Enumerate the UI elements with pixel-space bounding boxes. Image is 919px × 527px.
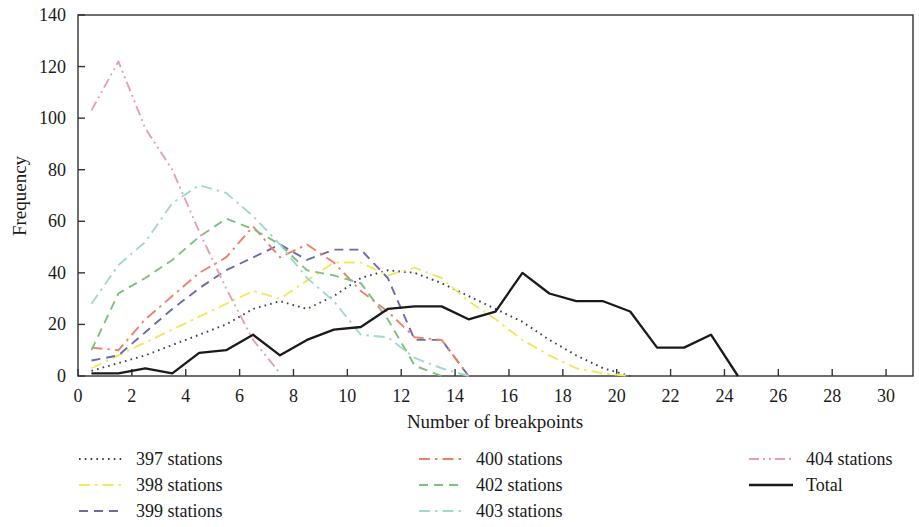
legend-line-sample — [748, 452, 794, 466]
x-tick-label: 22 — [662, 386, 680, 406]
legend-item[interactable]: 404 stations — [748, 446, 913, 472]
chart-plot-area: 024681012141618202224262830 020406080100… — [0, 0, 919, 440]
legend-item[interactable]: 397 stations — [78, 446, 418, 472]
legend-item-label: 403 stations — [476, 501, 563, 522]
legend-item-label: 399 stations — [136, 501, 223, 522]
y-tick-label: 140 — [39, 5, 66, 25]
legend-item-label: 404 stations — [806, 449, 893, 470]
x-tick-label: 28 — [823, 386, 841, 406]
y-tick-label: 120 — [39, 57, 66, 77]
x-tick-label: 4 — [181, 386, 190, 406]
x-tick-label: 8 — [289, 386, 298, 406]
legend-item-label: 400 stations — [476, 449, 563, 470]
x-tick-label: 10 — [338, 386, 356, 406]
x-tick-label: 12 — [392, 386, 410, 406]
x-tick-label: 16 — [500, 386, 518, 406]
legend-item-label: 397 stations — [136, 449, 223, 470]
legend-line-sample — [78, 504, 124, 518]
legend-line-sample — [418, 504, 464, 518]
legend-line-sample — [418, 452, 464, 466]
legend-item[interactable]: 402 stations — [418, 472, 748, 498]
x-tick-label: 20 — [608, 386, 626, 406]
x-tick-label: 6 — [235, 386, 244, 406]
series-line-397-stations — [91, 270, 630, 376]
x-tick-label: 26 — [769, 386, 787, 406]
chart-legend: 397 stations398 stations399 stations400 … — [78, 446, 913, 524]
series-line-404-stations — [91, 61, 280, 373]
series-line-403-stations — [91, 185, 468, 376]
legend-line-sample — [748, 478, 794, 492]
series-line-total — [91, 273, 737, 376]
data-series-group — [91, 61, 737, 376]
legend-line-sample — [418, 478, 464, 492]
legend-item-label: Total — [806, 475, 843, 496]
legend-line-sample — [78, 452, 124, 466]
legend-item[interactable]: 400 stations — [418, 446, 748, 472]
series-line-398-stations — [91, 263, 630, 376]
y-tick-label: 100 — [39, 108, 66, 128]
x-axis-tick-labels: 024681012141618202224262830 — [74, 386, 896, 406]
legend-item-label: 402 stations — [476, 475, 563, 496]
y-tick-label: 80 — [48, 160, 66, 180]
legend-line-sample — [78, 478, 124, 492]
legend-item[interactable]: 399 stations — [78, 498, 418, 524]
x-axis-title: Number of breakpoints — [407, 411, 583, 432]
x-axis-ticks — [78, 369, 886, 376]
line-chart: 024681012141618202224262830 020406080100… — [0, 0, 919, 440]
y-tick-label: 0 — [57, 366, 66, 386]
x-tick-label: 24 — [715, 386, 733, 406]
y-axis-ticks — [78, 15, 85, 376]
y-tick-label: 40 — [48, 263, 66, 283]
x-tick-label: 2 — [127, 386, 136, 406]
y-tick-label: 20 — [48, 314, 66, 334]
y-axis-title: Frequency — [9, 155, 30, 236]
legend-item[interactable]: 403 stations — [418, 498, 748, 524]
x-tick-label: 0 — [74, 386, 83, 406]
y-tick-label: 60 — [48, 211, 66, 231]
x-tick-label: 14 — [446, 386, 464, 406]
figure: 024681012141618202224262830 020406080100… — [0, 0, 919, 527]
x-tick-label: 18 — [554, 386, 572, 406]
legend-item[interactable]: Total — [748, 472, 913, 498]
y-axis-tick-labels: 020406080100120140 — [39, 5, 66, 386]
legend-item[interactable]: 398 stations — [78, 472, 418, 498]
legend-item-label: 398 stations — [136, 475, 223, 496]
x-tick-label: 30 — [877, 386, 895, 406]
plot-frame — [78, 15, 913, 376]
